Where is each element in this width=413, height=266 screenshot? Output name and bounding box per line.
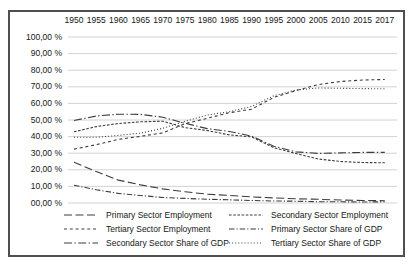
legend-item: Primary Sector Share of GDP <box>228 223 393 235</box>
legend-label: Primary Sector Employment <box>106 209 212 221</box>
legend-label: Secondary Sector Share of GDP <box>106 237 229 249</box>
legend-item: Secondary Sector Share of GDP <box>63 237 228 249</box>
series-line-primary-sector-employment <box>74 162 385 201</box>
legend-label: Secondary Sector Employment <box>271 209 388 221</box>
legend-line-swatch-icon <box>228 238 264 248</box>
legend-item: Secondary Sector Employment <box>228 209 393 221</box>
legend-label: Tertiary Sector Employment <box>106 223 210 235</box>
chart-frame: 1950195519601965197019751980198519901995… <box>8 10 405 257</box>
legend-line-swatch-icon <box>228 224 264 234</box>
sector-chart-screenshot: 1950195519601965197019751980198519901995… <box>0 0 413 266</box>
series-line-secondary-sector-employment <box>74 121 385 163</box>
legend-item: Primary Sector Employment <box>63 209 228 221</box>
legend-line-swatch-icon <box>63 210 99 220</box>
legend-label: Tertiary Sector Share of GDP <box>271 237 381 249</box>
legend-label: Primary Sector Share of GDP <box>271 223 382 235</box>
legend-line-swatch-icon <box>63 224 99 234</box>
legend-item: Tertiary Sector Share of GDP <box>228 237 393 249</box>
legend-item: Tertiary Sector Employment <box>63 223 228 235</box>
chart-legend: Primary Sector EmploymentSecondary Secto… <box>10 209 403 249</box>
legend-line-swatch-icon <box>228 210 264 220</box>
series-line-tertiary-sector-share-of-gdp <box>74 88 385 137</box>
legend-line-swatch-icon <box>63 238 99 248</box>
